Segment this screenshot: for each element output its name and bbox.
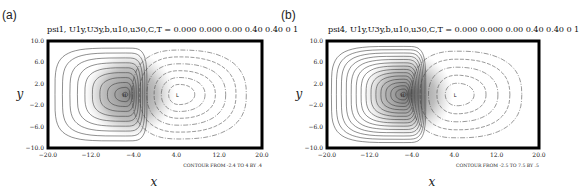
x-tick-label: −20.0 xyxy=(39,151,58,158)
contour-lines xyxy=(55,48,246,141)
x-tick-label: 4.0 xyxy=(172,151,182,158)
contour-plot-b: HL10.06.02.0−2.0−6.0−10.0−20.0−12.0−4.04… xyxy=(279,0,561,192)
y-tick-label: −10.0 xyxy=(305,144,324,151)
x-tick-label: 12.0 xyxy=(490,151,504,158)
y-tick-label: 10.0 xyxy=(310,37,324,44)
x-tick-label: −4.0 xyxy=(405,151,420,158)
x-axis-label: x xyxy=(429,175,436,189)
y-tick-label: 6.0 xyxy=(34,58,44,65)
low-marker: L xyxy=(454,92,457,98)
x-tick-label: 20.0 xyxy=(255,151,269,158)
low-marker: L xyxy=(176,92,179,98)
x-tick-label: 20.0 xyxy=(532,151,546,158)
x-tick-label: −20.0 xyxy=(318,151,337,158)
y-tick-label: −6.0 xyxy=(29,123,44,130)
y-tick-label: 10.0 xyxy=(31,37,45,44)
contour-note: CONTOUR FROM -2.5 TO 7.5 BY .5 xyxy=(456,163,539,168)
high-shading xyxy=(363,52,453,137)
y-tick-label: −10.0 xyxy=(26,144,45,151)
y-tick-label: −2.0 xyxy=(29,101,44,108)
high-marker: H xyxy=(123,92,127,98)
x-tick-label: 4.0 xyxy=(449,151,459,158)
contour-lines xyxy=(331,46,521,142)
x-axis-label: x xyxy=(151,175,158,189)
x-tick-label: −12.0 xyxy=(82,151,101,158)
y-tick-label: 2.0 xyxy=(34,80,44,87)
y-tick-label: 6.0 xyxy=(313,58,323,65)
y-axis-label: y xyxy=(295,87,303,101)
x-tick-label: −4.0 xyxy=(126,151,141,158)
high-marker: H xyxy=(401,92,405,98)
y-axis-label: y xyxy=(16,87,24,101)
y-tick-label: −6.0 xyxy=(308,123,323,130)
x-tick-label: 12.0 xyxy=(213,151,227,158)
contour-plot-a: HL10.06.02.0−2.0−6.0−10.0−20.0−12.0−4.04… xyxy=(0,0,282,192)
x-tick-label: −12.0 xyxy=(360,151,379,158)
y-tick-label: −2.0 xyxy=(308,101,323,108)
y-tick-label: 2.0 xyxy=(313,80,323,87)
contour-note: CONTOUR FROM -2.4 TO 4 BY .4 xyxy=(183,163,262,168)
panel-b: (b) psi4, U1y,U3y,b,u10,u30,C,T = 0.000 … xyxy=(279,0,561,192)
panel-a: (a) psi1, U1y,U3y,b,u10,u30,C,T = 0.000 … xyxy=(0,0,282,192)
